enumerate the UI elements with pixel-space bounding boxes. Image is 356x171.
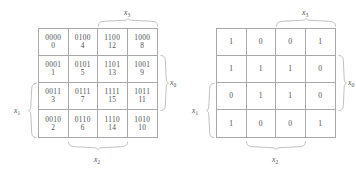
kmap-cell[interactable]: 1100 12	[98, 29, 128, 56]
left-kmap-grid: 0000 0 0100 4 1100 12 1000 8 0001 1 0101	[38, 28, 158, 138]
cell-index: 14	[108, 124, 116, 132]
left-top-label: x3	[124, 8, 130, 17]
kmap-cell[interactable]: 0000 0	[39, 29, 69, 56]
cell-index: 8	[140, 42, 144, 50]
kmap-value-cell[interactable]: 1	[247, 56, 277, 83]
left-left-brace	[28, 83, 37, 138]
kmap-value-cell[interactable]: 0	[276, 29, 306, 56]
karnaugh-map-figure: x3 x1 x0 x2 0000 0 010	[0, 0, 356, 171]
kmap-value-cell[interactable]: 1	[247, 83, 277, 110]
kmap-value-cell[interactable]: 1	[276, 83, 306, 110]
right-right-label: x0	[348, 78, 354, 87]
cell-index: 5	[81, 69, 85, 77]
right-left-label: x1	[192, 106, 198, 115]
kmap-value-cell[interactable]: 1	[217, 29, 247, 56]
kmap-cell[interactable]: 0111 7	[69, 83, 99, 110]
kmap-cell[interactable]: 0001 1	[39, 56, 69, 83]
left-bottom-label: x2	[94, 155, 100, 164]
cell-index: 10	[138, 124, 146, 132]
cell-index: 2	[51, 124, 55, 132]
left-right-brace	[160, 55, 169, 111]
kmap-cell[interactable]: 1000 8	[128, 29, 158, 56]
cell-index: 12	[108, 42, 116, 50]
cell-index: 11	[138, 96, 146, 104]
kmap-value-cell[interactable]: 0	[247, 110, 277, 137]
left-left-label: x1	[14, 106, 20, 115]
kmap-cell[interactable]: 0100 4	[69, 29, 99, 56]
left-right-label: x0	[170, 78, 176, 87]
kmap-value-cell[interactable]: 1	[306, 110, 336, 137]
cell-index: 9	[140, 69, 144, 77]
cell-index: 3	[51, 96, 55, 104]
kmap-cell[interactable]: 1110 14	[98, 110, 128, 137]
kmap-value-cell[interactable]: 0	[276, 110, 306, 137]
right-top-brace	[276, 18, 336, 27]
right-right-brace	[338, 55, 347, 111]
kmap-cell[interactable]: 0110 6	[69, 110, 99, 137]
kmap-cell[interactable]: 1010 10	[128, 110, 158, 137]
kmap-cell[interactable]: 1111 15	[98, 83, 128, 110]
kmap-value-cell[interactable]: 1	[276, 56, 306, 83]
cell-index: 13	[108, 69, 116, 77]
left-kmap-panel: x3 x1 x0 x2 0000 0 010	[0, 0, 178, 171]
cell-index: 6	[81, 124, 85, 132]
kmap-value-cell[interactable]: 1	[306, 29, 336, 56]
left-top-brace	[98, 18, 158, 27]
kmap-value-cell[interactable]: 0	[247, 29, 277, 56]
kmap-cell[interactable]: 0010 2	[39, 110, 69, 137]
cell-index: 4	[81, 42, 85, 50]
kmap-value-cell[interactable]: 0	[217, 83, 247, 110]
right-bottom-brace	[246, 141, 306, 150]
right-bottom-label: x2	[272, 155, 278, 164]
kmap-value-cell[interactable]: 0	[306, 83, 336, 110]
right-kmap-panel: x3 x1 x0 x2 1 0 0 1 1 1	[178, 0, 356, 171]
kmap-cell[interactable]: 0101 5	[69, 56, 99, 83]
kmap-cell[interactable]: 1101 13	[98, 56, 128, 83]
cell-index: 7	[81, 96, 85, 104]
cell-index: 0	[51, 42, 55, 50]
kmap-cell[interactable]: 0011 3	[39, 83, 69, 110]
kmap-value-cell[interactable]: 1	[217, 56, 247, 83]
kmap-value-cell[interactable]: 0	[306, 56, 336, 83]
cell-index: 15	[108, 96, 116, 104]
kmap-value-cell[interactable]: 1	[217, 110, 247, 137]
kmap-cell[interactable]: 1001 9	[128, 56, 158, 83]
right-left-brace	[206, 83, 215, 138]
cell-index: 1	[51, 69, 55, 77]
right-kmap-grid: 1 0 0 1 1 1 1 0 0 1 1 0 1 0 0 1	[216, 28, 336, 138]
right-top-label: x3	[302, 8, 308, 17]
kmap-cell[interactable]: 1011 11	[128, 83, 158, 110]
left-bottom-brace	[68, 141, 128, 150]
